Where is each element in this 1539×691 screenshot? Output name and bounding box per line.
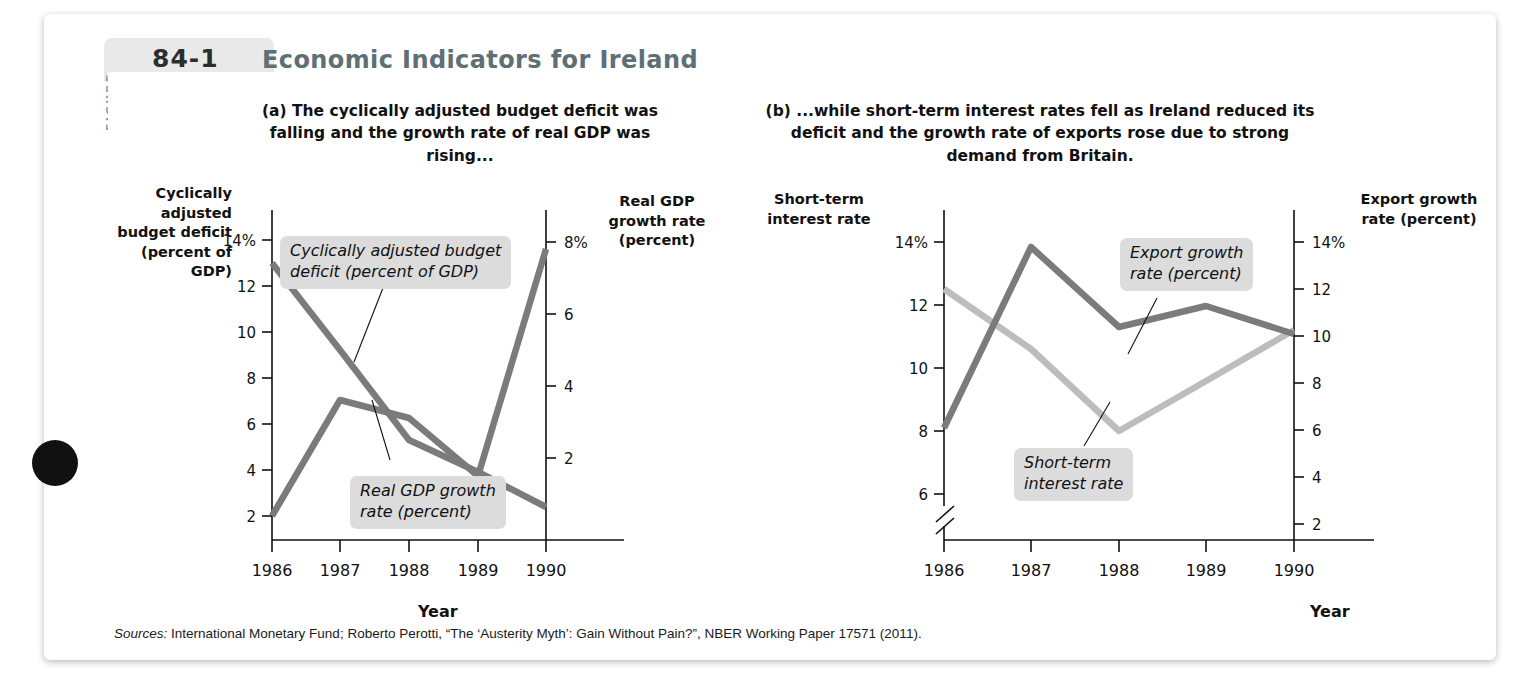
panel-b-left-ticks: 14% 12 10 8 6 — [895, 234, 944, 504]
svg-text:14%: 14% — [223, 232, 256, 250]
source-label: Sources: — [114, 626, 167, 641]
svg-text:8: 8 — [918, 423, 928, 441]
series-interest-rate-line — [944, 289, 1294, 431]
margin-bullet-dot — [32, 440, 78, 486]
svg-text:4: 4 — [1312, 469, 1322, 487]
svg-text:4: 4 — [246, 462, 256, 480]
svg-text:14%: 14% — [895, 234, 928, 252]
panel-a-x-axis-title: Year — [418, 602, 458, 621]
panel-b-x-axis-title: Year — [1310, 602, 1350, 621]
svg-text:10: 10 — [909, 360, 928, 378]
svg-text:12: 12 — [237, 278, 256, 296]
svg-text:4: 4 — [564, 378, 574, 396]
source-note: Sources: International Monetary Fund; Ro… — [114, 626, 1474, 641]
callout-deficit: Cyclically adjusted budget deficit (perc… — [280, 236, 511, 289]
panel-b-right-ticks: 14% 12 10 8 6 4 2 — [1294, 234, 1345, 534]
svg-text:10: 10 — [1312, 328, 1331, 346]
svg-text:1986: 1986 — [252, 561, 293, 580]
svg-text:14%: 14% — [1312, 234, 1345, 252]
panel-a-heading: (a) The cyclically adjusted budget defic… — [240, 100, 680, 167]
svg-text:1988: 1988 — [1099, 561, 1140, 580]
svg-text:6: 6 — [246, 416, 256, 434]
callout-gdp-growth: Real GDP growth rate (percent) — [350, 476, 506, 529]
svg-text:1989: 1989 — [1186, 561, 1227, 580]
panel-a-x-ticks: 1986 1987 1988 1989 1990 — [252, 540, 567, 580]
svg-text:2: 2 — [564, 450, 574, 468]
panel-a-left-ticks: 14% 12 10 8 6 4 2 — [223, 232, 272, 526]
svg-text:6: 6 — [918, 486, 928, 504]
panel-b-x-ticks: 1986 1987 1988 1989 1990 — [924, 540, 1315, 580]
panel-b-left-axis-title: Short-term interest rate — [744, 190, 894, 229]
panel-a-right-ticks: 8% 6 4 2 — [546, 234, 588, 468]
figure-page: FIGURE 84-1 Economic Indicators for Irel… — [0, 0, 1539, 691]
figure-number: 84-1 — [152, 44, 219, 73]
callout-interest-rate: Short-term interest rate — [1014, 448, 1133, 501]
svg-text:2: 2 — [246, 508, 256, 526]
svg-text:1987: 1987 — [1011, 561, 1052, 580]
svg-text:2: 2 — [1312, 516, 1322, 534]
figure-card: FIGURE 84-1 Economic Indicators for Irel… — [44, 14, 1496, 660]
svg-text:8: 8 — [246, 370, 256, 388]
svg-text:12: 12 — [909, 297, 928, 315]
svg-text:6: 6 — [564, 306, 574, 324]
svg-text:1986: 1986 — [924, 561, 965, 580]
svg-text:6: 6 — [1312, 422, 1322, 440]
callout-export-growth: Export growth rate (percent) — [1120, 238, 1253, 291]
svg-text:1990: 1990 — [526, 561, 567, 580]
svg-text:12: 12 — [1312, 281, 1331, 299]
panel-b-heading: (b) ...while short-term interest rates f… — [760, 100, 1320, 167]
svg-text:1990: 1990 — [1274, 561, 1315, 580]
svg-text:1988: 1988 — [389, 561, 430, 580]
svg-text:10: 10 — [237, 324, 256, 342]
svg-text:1987: 1987 — [320, 561, 361, 580]
svg-text:8: 8 — [1312, 375, 1322, 393]
page-title: Economic Indicators for Ireland — [262, 46, 698, 74]
source-text: International Monetary Fund; Roberto Per… — [167, 626, 921, 641]
svg-text:8%: 8% — [564, 234, 588, 252]
svg-text:1989: 1989 — [458, 561, 499, 580]
